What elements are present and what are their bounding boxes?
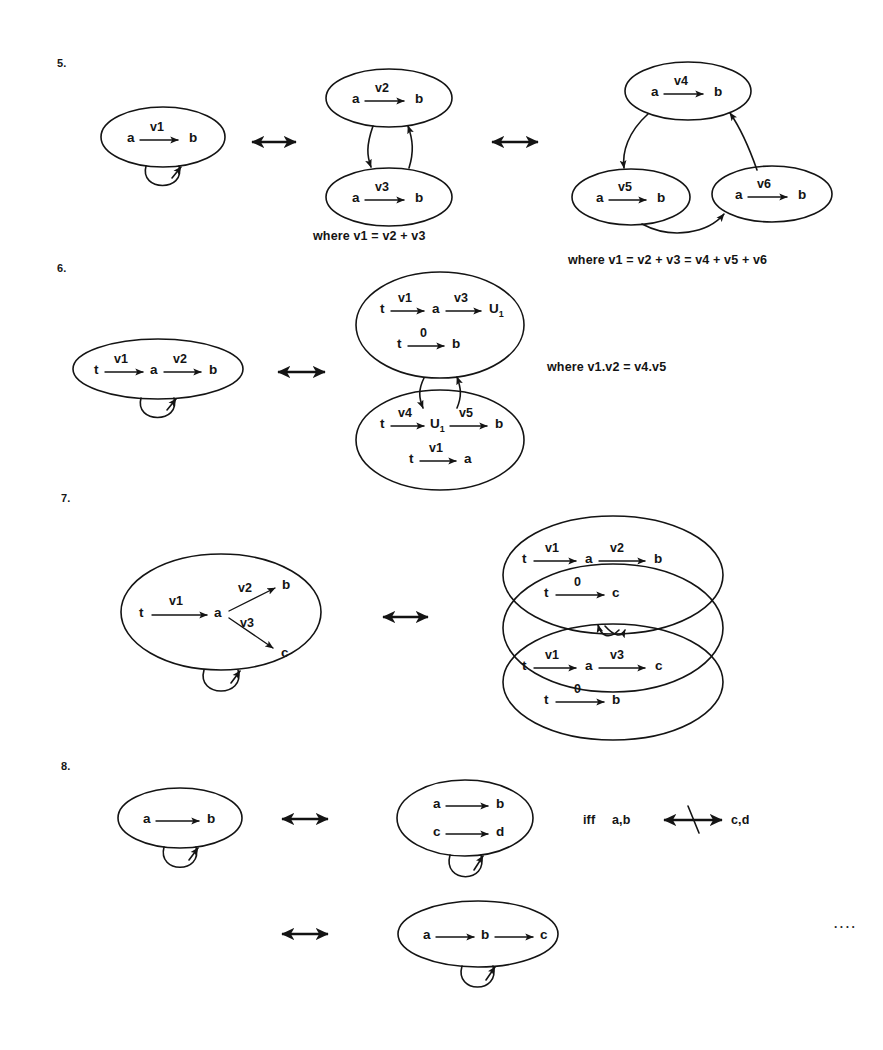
caption-where-6: where v1.v2 = v4.v5 bbox=[546, 360, 666, 374]
node-a-label: a bbox=[150, 362, 158, 377]
figure-canvas: a v1 b a v2 b a v3 b where v1 = v2 + v3 bbox=[0, 0, 883, 1050]
node-a-label: a bbox=[143, 811, 151, 826]
node-c-label: c bbox=[540, 927, 548, 942]
node-c-label: c bbox=[281, 645, 289, 660]
node-a-label: a bbox=[585, 658, 593, 673]
edge-v1-label: v1 bbox=[114, 352, 128, 366]
node-b-label: b bbox=[495, 416, 503, 431]
node-d-label: d bbox=[496, 824, 504, 839]
diagram-8a: a b bbox=[118, 788, 242, 867]
pair-cd-label: c,d bbox=[731, 813, 750, 827]
edge-v3-label: v3 bbox=[454, 291, 468, 305]
node-b-label: b bbox=[209, 362, 217, 377]
node-a-label: a bbox=[585, 551, 593, 566]
node-b-label: b bbox=[714, 84, 722, 99]
node-a-label: a bbox=[423, 927, 431, 942]
diagram-6a: t v1 a v2 b bbox=[73, 339, 243, 418]
node-a-label: a bbox=[433, 796, 441, 811]
node-U-label: U1 bbox=[489, 301, 504, 319]
node-t-label: t bbox=[380, 416, 385, 431]
node-b-label: b bbox=[612, 692, 620, 707]
edge-v1-label: v1 bbox=[545, 541, 559, 555]
diagram-7b-bubbles: t v1 a v2 b t 0 c t v1 a v3 c t 0 b bbox=[503, 516, 723, 740]
node-c-label: c bbox=[612, 585, 620, 600]
node-b-label: b bbox=[282, 577, 290, 592]
edge-zero-label: 0 bbox=[420, 326, 427, 340]
node-a-label: a bbox=[596, 190, 604, 205]
edge-zero-label: 0 bbox=[574, 575, 581, 589]
node-b-label: b bbox=[189, 130, 197, 145]
edge-v2-label: v2 bbox=[173, 352, 187, 366]
node-c-label: c bbox=[433, 824, 441, 839]
node-a-label: a bbox=[214, 605, 222, 620]
edge-v3-label: v3 bbox=[240, 616, 254, 630]
node-b-label: b bbox=[654, 551, 662, 566]
node-t-label: t bbox=[409, 451, 414, 466]
node-t-label: t bbox=[522, 551, 527, 566]
edge-v1-label: v1 bbox=[545, 648, 559, 662]
node-b-label: b bbox=[415, 91, 423, 106]
edge-v5-label: v5 bbox=[618, 180, 632, 194]
edge-v2-label: v2 bbox=[238, 581, 252, 595]
node-b-label: b bbox=[207, 811, 215, 826]
node-b-label: b bbox=[496, 796, 504, 811]
edge-v1-label: v1 bbox=[398, 291, 412, 305]
diagram-8c: a b c bbox=[398, 901, 558, 987]
edge-v3-label: v3 bbox=[375, 180, 389, 194]
edge-zero-label: 0 bbox=[574, 682, 581, 696]
diagram-6b: t v1 a v3 U1 t 0 b t v4 U1 v5 b t v1 a bbox=[356, 272, 666, 490]
node-t-label: t bbox=[522, 658, 527, 673]
edge-v2-label: v2 bbox=[610, 541, 624, 555]
pair-ab-label: a,b bbox=[612, 813, 631, 827]
diagram-5b: a v2 b a v3 b where v1 = v2 + v3 bbox=[312, 69, 452, 243]
node-a-label: a bbox=[651, 84, 659, 99]
node-a-label: a bbox=[735, 187, 743, 202]
node-b-label: b bbox=[657, 190, 665, 205]
node-t-label: t bbox=[397, 336, 402, 351]
node-a-label: a bbox=[464, 451, 472, 466]
diagram-8b: a b c d bbox=[397, 780, 533, 877]
caption-where-5a: where v1 = v2 + v3 bbox=[312, 229, 426, 243]
edge-v1-label: v1 bbox=[169, 594, 183, 608]
diagram-5c: a v4 b a v5 b a v6 b where v1 = v2 + v3 … bbox=[567, 62, 832, 267]
node-b-label: b bbox=[481, 927, 489, 942]
figure-sheet: 5. 6. 7. 8. .... a v1 b bbox=[0, 0, 883, 1050]
node-U-label: U1 bbox=[430, 416, 445, 434]
edge-v1-label: v1 bbox=[429, 441, 443, 455]
node-a-label: a bbox=[352, 91, 360, 106]
node-a-label: a bbox=[432, 301, 440, 316]
diagram-7a: t v1 a v2 b v3 c bbox=[121, 554, 321, 691]
condition-8: iff a,b c,d bbox=[583, 806, 750, 833]
node-b-label: b bbox=[415, 190, 423, 205]
caption-where-5b: where v1 = v2 + v3 = v4 + v5 + v6 bbox=[567, 253, 767, 267]
node-b-label: b bbox=[798, 187, 806, 202]
edge-v5-label: v5 bbox=[459, 406, 473, 420]
edge-v1-label: v1 bbox=[150, 120, 164, 134]
edge-v3-label: v3 bbox=[610, 648, 624, 662]
edge-v4-label: v4 bbox=[398, 406, 412, 420]
node-t-label: t bbox=[544, 692, 549, 707]
iff-label: iff bbox=[583, 813, 596, 827]
diagram-7b bbox=[503, 564, 723, 692]
edge-v6-label: v6 bbox=[757, 177, 771, 191]
node-c-label: c bbox=[655, 658, 663, 673]
node-t-label: t bbox=[544, 585, 549, 600]
edge-v2-label: v2 bbox=[375, 81, 389, 95]
diagram-5a: a v1 b bbox=[101, 107, 225, 186]
node-a-label: a bbox=[127, 130, 135, 145]
node-t-label: t bbox=[94, 362, 99, 377]
edge-v4-label: v4 bbox=[674, 74, 688, 88]
node-b-label: b bbox=[452, 336, 460, 351]
node-a-label: a bbox=[352, 190, 360, 205]
node-t-label: t bbox=[380, 301, 385, 316]
node-t-label: t bbox=[139, 605, 144, 620]
